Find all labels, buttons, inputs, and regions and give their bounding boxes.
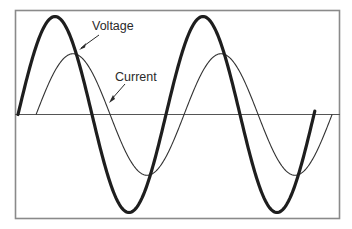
voltage-current-diagram [0, 0, 352, 229]
voltage-arrowhead-icon [79, 43, 86, 50]
voltage-label: Voltage [92, 20, 134, 33]
current-label: Current [115, 71, 157, 84]
